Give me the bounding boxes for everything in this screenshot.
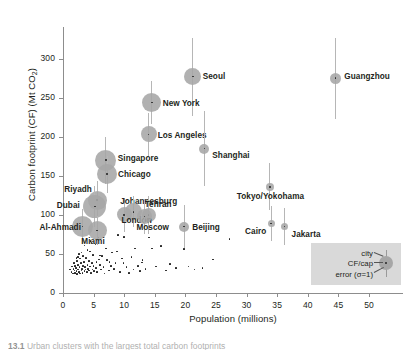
data-point: [75, 267, 77, 269]
city-label: Tehran: [145, 200, 172, 209]
data-point: [86, 271, 88, 273]
x-tick-label: 15: [140, 300, 170, 310]
x-tick-label: 5: [79, 300, 109, 310]
city-label: Seoul: [203, 72, 226, 81]
x-tick-label: 35: [262, 300, 292, 310]
x-tick: [63, 293, 64, 297]
data-point: [141, 262, 143, 264]
scatter-plot: 05101520253035404550 050100150200250300 …: [0, 0, 409, 350]
x-tick: [308, 293, 309, 297]
data-point: [93, 270, 95, 272]
data-point: [81, 270, 83, 272]
data-point: [82, 272, 84, 274]
x-tick: [216, 293, 217, 297]
y-tick: [59, 98, 63, 99]
figure-caption: 13.1 Urban clusters with the largest tot…: [8, 341, 308, 350]
city-label: Dubai: [57, 201, 80, 210]
data-point: [137, 265, 139, 267]
data-point: [194, 269, 196, 271]
data-point: [165, 270, 167, 272]
data-point: [104, 273, 106, 275]
legend-city-label: city: [315, 249, 373, 258]
x-tick-label: 10: [109, 300, 139, 310]
y-tick: [59, 215, 63, 216]
y-tick: [59, 59, 63, 60]
city-label: Shanghai: [212, 151, 249, 160]
data-point: [91, 262, 93, 264]
city-label: Jakarta: [292, 230, 321, 239]
city-label: Miami: [81, 237, 104, 246]
city-center-dot: [94, 206, 96, 208]
data-point: [139, 270, 141, 272]
x-tick-label: 20: [170, 300, 200, 310]
y-tick: [59, 137, 63, 138]
city-label: Guangzhou: [344, 72, 389, 81]
city-label: Los Angeles: [158, 131, 207, 140]
data-point: [105, 248, 107, 250]
data-point: [148, 237, 150, 239]
data-point: [73, 262, 75, 264]
city-center-dot: [269, 186, 271, 188]
y-tick: [59, 176, 63, 177]
data-point: [188, 266, 190, 268]
data-point: [76, 273, 78, 275]
data-point: [78, 253, 80, 255]
data-point: [81, 252, 83, 254]
data-point: [134, 248, 136, 250]
data-point: [87, 264, 89, 266]
data-point: [87, 249, 89, 251]
data-point: [160, 245, 162, 247]
data-point: [90, 272, 92, 274]
x-tick: [277, 293, 278, 297]
legend-leader-cfcap: [374, 262, 383, 263]
data-point: [82, 255, 84, 257]
data-point: [121, 258, 123, 260]
data-point: [85, 257, 87, 259]
y-tick-label: 0: [29, 287, 55, 297]
data-point: [142, 259, 144, 261]
data-point: [212, 259, 214, 261]
data-point: [89, 251, 91, 253]
data-point: [96, 261, 98, 263]
data-point: [88, 260, 90, 262]
x-axis-label: Population (millions): [63, 313, 403, 324]
x-tick: [369, 293, 370, 297]
x-tick: [185, 293, 186, 297]
x-tick-label: 50: [354, 300, 384, 310]
y-axis-line: [63, 27, 64, 293]
data-point: [113, 268, 115, 270]
x-tick: [94, 293, 95, 297]
x-tick: [338, 293, 339, 297]
data-point: [76, 260, 78, 262]
data-point: [175, 267, 177, 269]
data-point: [133, 269, 135, 271]
data-point: [229, 238, 231, 240]
data-point: [83, 261, 85, 263]
city-label: Riyadh: [64, 185, 92, 194]
city-label: New York: [163, 99, 200, 108]
data-point: [84, 270, 86, 272]
data-point: [119, 271, 121, 273]
data-point: [128, 272, 130, 274]
x-axis-line: [63, 293, 403, 294]
x-tick-label: 30: [232, 300, 262, 310]
city-center-dot: [151, 102, 153, 104]
data-point: [92, 254, 94, 256]
data-point: [183, 248, 185, 250]
data-point: [117, 234, 119, 236]
data-point: [115, 262, 117, 264]
data-point: [72, 273, 74, 275]
data-point: [99, 264, 101, 266]
x-tick: [247, 293, 248, 297]
data-point: [100, 269, 102, 271]
data-point: [123, 262, 125, 264]
data-point: [93, 265, 95, 267]
data-point: [80, 262, 82, 264]
city-label: Tokyo/Yokohama: [237, 192, 304, 201]
city-center-dot: [335, 77, 337, 79]
data-point: [169, 263, 171, 265]
data-point: [103, 266, 105, 268]
data-point: [79, 273, 81, 275]
data-point: [155, 266, 157, 268]
data-point: [106, 259, 108, 261]
